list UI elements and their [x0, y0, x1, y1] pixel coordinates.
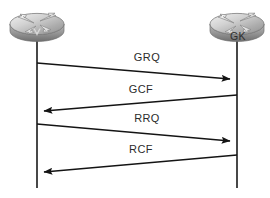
message-label-grq: GRQ — [134, 51, 160, 63]
message-arrow-grq — [37, 63, 230, 79]
sequence-diagram: GK GRQ GCF RRQ RCF — [0, 0, 270, 198]
message-label-rrq: RRQ — [134, 112, 160, 124]
node-label-gatekeeper: GK — [230, 30, 246, 42]
message-label-gcf: GCF — [129, 83, 153, 95]
message-arrow-gcf — [44, 95, 237, 111]
message-arrow-rrq — [37, 124, 230, 141]
message-arrow-rcf — [44, 155, 237, 172]
message-label-rcf: RCF — [129, 143, 153, 155]
router-icon — [10, 13, 64, 41]
